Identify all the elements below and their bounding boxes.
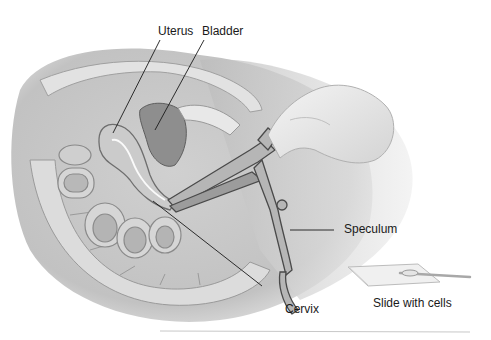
slide-with-cells xyxy=(348,264,470,286)
label-slide-with-cells: Slide with cells xyxy=(373,296,452,310)
label-uterus: Uterus xyxy=(158,24,193,38)
label-cervix: Cervix xyxy=(285,302,319,316)
label-bladder: Bladder xyxy=(202,24,243,38)
medical-illustration: Uterus Bladder Speculum Cervix Slide wit… xyxy=(0,0,491,340)
label-speculum: Speculum xyxy=(344,222,397,236)
pelvic-cross-section-drawing xyxy=(0,0,491,340)
bottom-rule xyxy=(160,331,470,332)
